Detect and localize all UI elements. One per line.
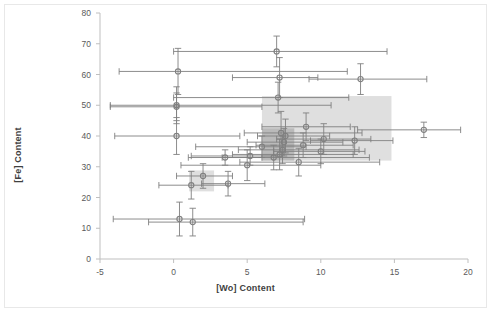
x-tick-label: 0 [171, 267, 176, 277]
data-points-group [110, 36, 460, 236]
y-axis-title: [Fe] Content [13, 95, 23, 215]
scatter-plot-canvas: -50510152001020304050607080 [0, 0, 491, 312]
data-point [110, 93, 262, 121]
data-point [188, 150, 262, 165]
y-tick-label: 30 [82, 162, 92, 172]
x-tick-label: 10 [316, 267, 326, 277]
y-tick-label: 80 [82, 8, 92, 18]
x-tick-label: 5 [245, 267, 250, 277]
x-tick-label: 15 [390, 267, 400, 277]
chart-figure: -50510152001020304050607080 [Wo] Content… [0, 0, 491, 312]
data-point [113, 202, 304, 236]
y-tick-label: 10 [82, 223, 92, 233]
data-point [119, 48, 347, 94]
data-point [149, 208, 304, 236]
x-axis-title: [Wo] Content [0, 283, 491, 293]
data-point [309, 64, 427, 95]
data-point [115, 118, 240, 155]
y-tick-label: 50 [82, 100, 92, 110]
y-tick-label: 40 [82, 131, 92, 141]
y-tick-label: 20 [82, 193, 92, 203]
y-tick-label: 0 [86, 254, 91, 264]
shaded-regions-group [189, 96, 391, 191]
x-tick-label: 20 [463, 267, 473, 277]
y-tick-label: 60 [82, 70, 92, 80]
data-point [174, 36, 387, 67]
data-point [232, 58, 317, 98]
y-tick-label: 70 [82, 39, 92, 49]
x-tick-label: -5 [96, 267, 104, 277]
